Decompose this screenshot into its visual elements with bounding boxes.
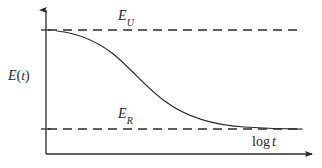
x-axis-label-function: log (252, 134, 270, 149)
upper-asymptote-label-base: E (118, 8, 127, 23)
x-axis-label-variable: t (272, 134, 276, 149)
lower-asymptote-label-subscript: R (127, 115, 133, 126)
lower-asymptote-label: ER (118, 107, 133, 121)
relaxation-curve (57, 31, 302, 129)
x-axis-label: logt (252, 135, 276, 149)
y-axis-label-base: E (8, 68, 17, 83)
lower-asymptote-label-base: E (118, 106, 127, 121)
upper-asymptote-label-subscript: U (127, 17, 134, 28)
relaxation-modulus-figure: EU ER E(t) logt (0, 0, 322, 168)
upper-asymptote-label: EU (118, 9, 134, 23)
y-axis-label: E(t) (8, 69, 30, 83)
y-axis-label-argument: (t) (17, 68, 30, 83)
